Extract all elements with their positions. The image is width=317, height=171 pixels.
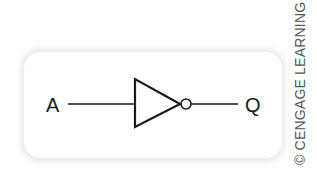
not-gate-diagram: A Q bbox=[0, 0, 317, 171]
inversion-bubble-icon bbox=[181, 99, 191, 109]
input-label: A bbox=[46, 94, 60, 116]
output-label: Q bbox=[245, 94, 261, 116]
copyright-credit: © CENGAGE LEARNING bbox=[292, 2, 308, 165]
buffer-triangle-icon bbox=[135, 79, 180, 127]
